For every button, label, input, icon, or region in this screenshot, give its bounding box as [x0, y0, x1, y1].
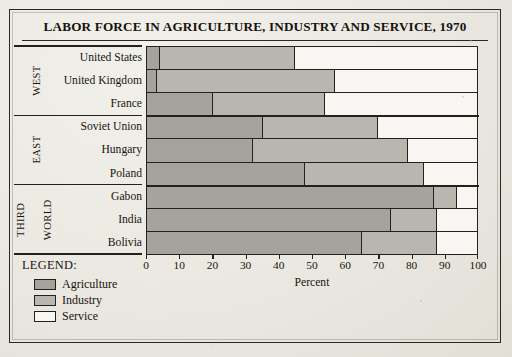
- bar-segment-agriculture: [147, 232, 362, 254]
- x-axis-tick-label: 50: [306, 259, 317, 271]
- category-label: France: [16, 92, 146, 115]
- x-axis-tick-label: 100: [469, 259, 486, 271]
- bar-segment-industry: [253, 139, 408, 161]
- legend-swatch-agriculture: [34, 279, 56, 290]
- group-separator-rule: [147, 185, 479, 187]
- legend-swatch-industry: [34, 295, 56, 306]
- bar-row: [147, 209, 477, 232]
- bar-segment-service: [295, 47, 477, 69]
- bar-segment-agriculture: [147, 186, 434, 208]
- x-axis-tick-label: 60: [339, 259, 350, 271]
- bar-row: [147, 139, 477, 162]
- bar-row: [147, 47, 477, 70]
- bar-row: [147, 93, 477, 116]
- title-underline-rule: [22, 40, 488, 41]
- group-bracket-rule: [14, 115, 142, 116]
- group-separator-rule: [147, 115, 479, 117]
- bar-segment-industry: [305, 163, 424, 185]
- scan-speck: [470, 40, 472, 42]
- legend-label: Industry: [62, 293, 102, 308]
- bar-segment-agriculture: [147, 209, 391, 231]
- category-label: Gabon: [16, 185, 146, 208]
- bar-segment-industry: [160, 47, 295, 69]
- legend-title: LEGEND:: [22, 258, 182, 273]
- bar-segment-agriculture: [147, 163, 305, 185]
- x-axis-tick-label: 30: [240, 259, 251, 271]
- bar-segment-service: [335, 70, 477, 92]
- x-axis: 0102030405060708090100: [146, 254, 478, 260]
- bar-segment-agriculture: [147, 70, 157, 92]
- plot-area: [146, 46, 478, 254]
- legend: LEGEND: AgricultureIndustryService: [22, 258, 182, 324]
- bar-row: [147, 186, 477, 209]
- x-axis-tick-label: 90: [439, 259, 450, 271]
- category-label: India: [16, 208, 146, 231]
- bar-row: [147, 116, 477, 139]
- bar-segment-service: [325, 93, 477, 115]
- category-label: United States: [16, 46, 146, 69]
- scan-speck: [36, 268, 38, 270]
- scan-speck: [420, 300, 422, 302]
- legend-swatch-service: [34, 311, 56, 322]
- group-bracket-rule: [14, 184, 142, 185]
- legend-label: Service: [62, 309, 98, 324]
- bar-row: [147, 163, 477, 186]
- x-axis-tick-label: 40: [273, 259, 284, 271]
- bar-segment-agriculture: [147, 139, 253, 161]
- bar-segment-industry: [434, 186, 457, 208]
- scan-speck: [84, 20, 85, 21]
- legend-item: Industry: [34, 292, 182, 308]
- bar-segment-agriculture: [147, 116, 263, 138]
- scanned-page-background: LABOR FORCE IN AGRICULTURE, INDUSTRY AND…: [0, 0, 512, 357]
- scan-speck: [210, 345, 212, 346]
- bar-segment-service: [424, 163, 477, 185]
- bar-segment-industry: [213, 93, 325, 115]
- group-bracket-rule: [14, 45, 142, 46]
- bar-segment-industry: [391, 209, 437, 231]
- bar-segment-service: [437, 232, 477, 254]
- legend-item: Service: [34, 308, 182, 324]
- chart-title: LABOR FORCE IN AGRICULTURE, INDUSTRY AND…: [16, 19, 494, 35]
- x-axis-title: Percent: [146, 276, 478, 289]
- bar-segment-industry: [263, 116, 379, 138]
- category-label: Bolivia: [16, 231, 146, 254]
- scan-speck: [300, 330, 301, 331]
- bar-row: [147, 232, 477, 255]
- bar-segment-service: [457, 186, 477, 208]
- bar-segment-service: [437, 209, 477, 231]
- category-label: Poland: [16, 162, 146, 185]
- category-label-column: United StatesUnited KingdomFranceSoviet …: [8, 46, 146, 254]
- x-axis-tick-label: 70: [373, 259, 384, 271]
- bar-segment-agriculture: [147, 47, 160, 69]
- bar-segment-industry: [362, 232, 438, 254]
- scan-speck: [462, 96, 464, 98]
- x-axis-tick-label: 20: [207, 259, 218, 271]
- category-label: Soviet Union: [16, 115, 146, 138]
- category-label: United Kingdom: [16, 69, 146, 92]
- bar-segment-industry: [157, 70, 335, 92]
- legend-items: AgricultureIndustryService: [22, 276, 182, 324]
- legend-item: Agriculture: [34, 276, 182, 292]
- x-axis-tick-label: 80: [406, 259, 417, 271]
- bar-segment-service: [408, 139, 477, 161]
- bar-row: [147, 70, 477, 93]
- bar-segment-agriculture: [147, 93, 213, 115]
- category-label: Hungary: [16, 138, 146, 161]
- legend-label: Agriculture: [62, 277, 117, 292]
- bar-segment-service: [378, 116, 477, 138]
- group-bracket-rule: [14, 253, 142, 254]
